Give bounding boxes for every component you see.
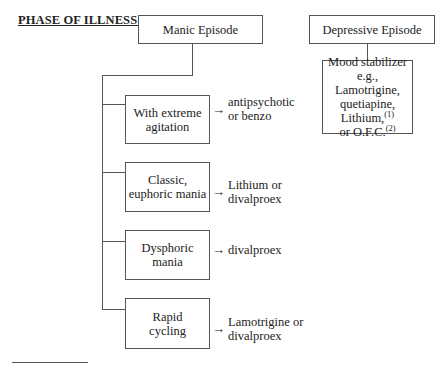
right-arrow-icon: → — [212, 185, 225, 199]
treatment-line: Mood stabilizer — [328, 55, 407, 69]
depressive-episode-label: Depressive Episode — [323, 23, 422, 37]
treatment-line: divalproex — [228, 329, 303, 343]
subtype-label: cycling — [149, 324, 186, 338]
manic-trunk-line — [102, 75, 103, 309]
subtype-label: Classic, — [148, 173, 187, 187]
treatment-line: or O.F.C.(2) — [339, 125, 395, 139]
treatment-text: Lamotrigine or divalproex — [228, 315, 303, 343]
manic-episode-label: Manic Episode — [163, 23, 238, 37]
phase-of-illness-title: PHASE OF ILLNESS: — [18, 13, 142, 28]
branch-line — [102, 172, 126, 173]
depressive-treatment-box: Mood stabilizer e.g., Lamotrigine, queti… — [322, 60, 413, 134]
treatment-text: antipsychotic or benzo — [228, 95, 295, 123]
subtype-label: mania — [152, 255, 183, 269]
treatment-line: or benzo — [228, 109, 295, 123]
treatment-text: divalproex — [228, 243, 281, 257]
branch-line — [102, 241, 126, 242]
footnote-divider — [12, 362, 88, 363]
right-arrow-icon: → — [212, 243, 225, 257]
subtype-box-classic-euphoric: Classic, euphoric mania — [125, 162, 210, 212]
ofc-text: or O.F.C. — [339, 125, 385, 139]
right-arrow-icon: → — [212, 103, 225, 117]
treatment-line: e.g., Lamotrigine, — [323, 69, 412, 97]
subtype-label: Dysphoric — [141, 241, 193, 255]
subtype-label: Rapid — [153, 310, 183, 324]
treatment-line: antipsychotic — [228, 95, 295, 109]
treatment-line: divalproex — [228, 192, 282, 206]
subtype-label: agitation — [146, 120, 190, 134]
manic-connector-down — [192, 44, 193, 75]
branch-line — [102, 104, 126, 105]
subtype-label: With extreme — [134, 106, 202, 120]
footnote-ref-2: (2) — [386, 123, 396, 133]
treatment-line: Lithium or — [228, 178, 282, 192]
subtype-box-extreme-agitation: With extreme agitation — [125, 95, 210, 144]
treatment-line: Lamotrigine or — [228, 315, 303, 329]
subtype-box-dysphoric: Dysphoric mania — [125, 230, 210, 280]
footnote-ref-1: (1) — [384, 109, 394, 119]
subtype-label: euphoric mania — [129, 187, 206, 201]
manic-connector-left — [102, 75, 193, 76]
treatment-line: divalproex — [228, 243, 281, 257]
treatment-text: Lithium or divalproex — [228, 178, 282, 206]
subtype-box-rapid-cycling: Rapid cycling — [125, 298, 210, 349]
depressive-episode-box: Depressive Episode — [309, 15, 435, 44]
manic-episode-box: Manic Episode — [138, 15, 263, 44]
right-arrow-icon: → — [212, 322, 225, 336]
branch-line — [102, 309, 126, 310]
lithium-text: Lithium, — [341, 111, 384, 125]
